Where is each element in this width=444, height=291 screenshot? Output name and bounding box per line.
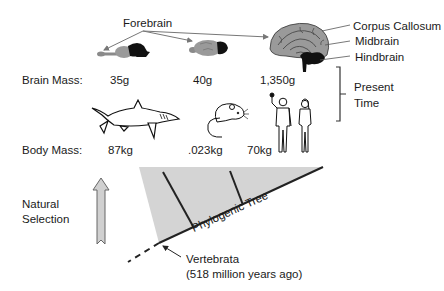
natural-selection-arrow-icon [93, 178, 109, 244]
forebrain-label: Forebrain [123, 16, 172, 30]
vertebrata-label: Vertebrata [186, 252, 239, 266]
human-brain-icon [270, 23, 350, 72]
body-mass-label: Body Mass: [22, 143, 82, 157]
evolution-diagram: Forebrain Corpus Callosum Midbrain Hindb… [0, 0, 444, 291]
shark-body-mass: 87kg [108, 143, 133, 157]
vertebrata-pointer-arrow [163, 246, 181, 257]
rat-body-mass: .023kg [188, 143, 223, 157]
present-time-bracket [336, 67, 346, 121]
vertebrata-age-label: (518 million years ago) [186, 267, 302, 281]
brain-mass-label: Brain Mass: [22, 73, 83, 87]
human-brain-mass: 1,350g [260, 73, 295, 87]
present-time-label-line1: Present [354, 80, 394, 94]
rat-brain-mass: 40g [193, 73, 212, 87]
hindbrain-label: Hindbrain [355, 50, 404, 64]
natural-selection-label-line1: Natural [22, 197, 59, 211]
human-figures-icon [270, 93, 311, 152]
rat-brain-icon [189, 40, 228, 56]
human-body-mass: 70kg [247, 143, 272, 157]
corpus-callosum-label: Corpus Callosum [353, 19, 441, 33]
shark-icon [92, 100, 179, 138]
shark-brain-icon [97, 43, 150, 58]
present-time-label-line2: Time [354, 96, 379, 110]
rat-icon [208, 104, 249, 137]
shark-brain-mass: 35g [110, 73, 129, 87]
natural-selection-label-line2: Selection [22, 212, 69, 226]
midbrain-label: Midbrain [355, 34, 399, 48]
